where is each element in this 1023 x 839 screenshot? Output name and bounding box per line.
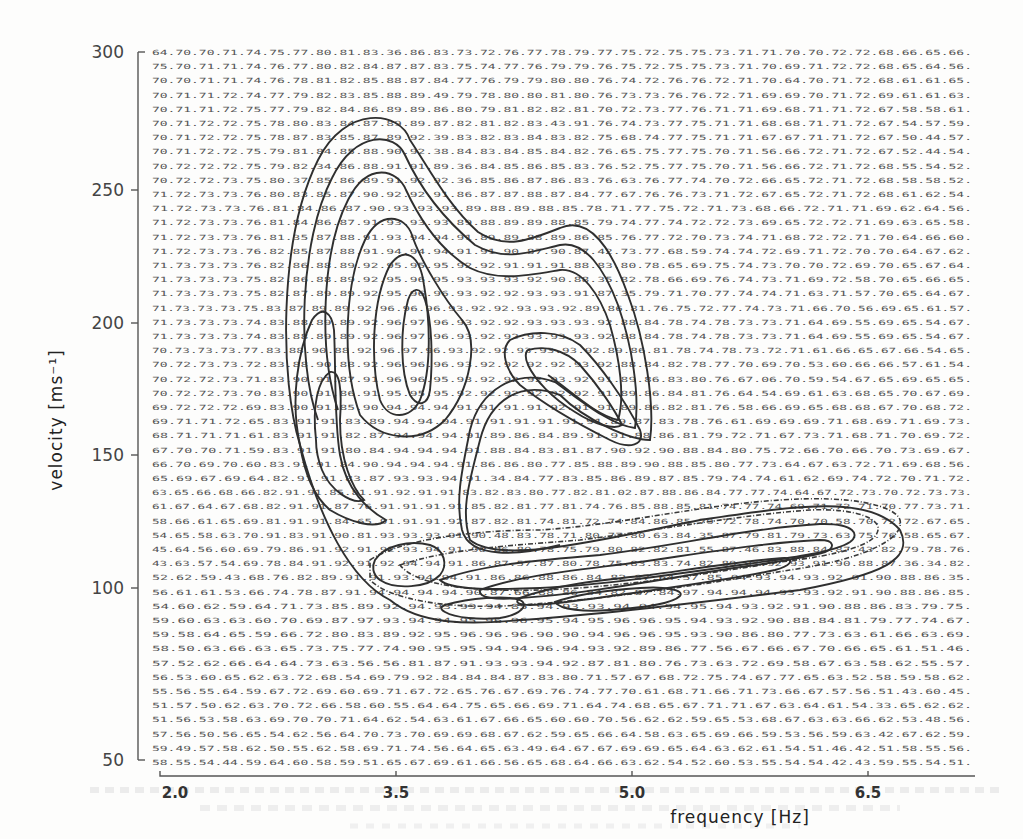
grid-row: 70.73.73.73.77.83.88.90.88.92.96.97.96.9…	[152, 346, 972, 355]
grid-row: 57.56.50.56.65.54.62.56.64.70.73.70.69.6…	[152, 730, 972, 739]
grid-row: 71.73.73.73.75.83.87.89.89.92.96.96.96.9…	[152, 304, 972, 313]
grid-row: 51.56.53.58.63.69.70.70.71.64.62.54.63.6…	[152, 715, 972, 724]
contour-chart: 64.70.70.71.74.75.77.80.81.83.36.86.83.7…	[0, 0, 1023, 839]
grid-row: 71.72.73.73.76.82.85.87.88.91.94.94.94.9…	[152, 247, 972, 256]
grid-row: 70.71.72.72.75.79.81.84.85.88.90.92.38.8…	[152, 147, 972, 156]
grid-row: 68.71.71.71.61.83.91.91.82.87.94.94.94.9…	[152, 431, 972, 440]
grid-row: 71.72.73.73.76.81.35.87.88.91.93.94.94.9…	[152, 233, 972, 242]
grid-row: 70.72.72.73.75.80.37.85.86.89.91.92.92.3…	[152, 176, 972, 185]
grid-row: 56.61.61.53.66.74.78.87.91.94.94.94.94.9…	[152, 588, 972, 597]
y-tick-300: 300	[92, 42, 124, 62]
x-tick-2-0: 2.0	[162, 784, 189, 802]
y-tick-200: 200	[92, 313, 124, 333]
grid-row: 63.65.66.68.66.82.91.91.85.81.91.92.91.9…	[152, 488, 972, 497]
grid-row: 70.70.71.71.74.76.78.81.82.85.88.87.84.7…	[152, 76, 972, 85]
grid-row: 71.73.73.73.74.83.88.89.89.92.96.97.96.9…	[152, 318, 972, 327]
grid-row: 51.57.50.62.63.70.72.66.58.60.55.64.64.7…	[152, 701, 972, 710]
x-axis-title: frequency [Hz]	[670, 807, 810, 827]
grid-row: 69.71.71.72.65.83.91.91.83.89.94.94.94.9…	[152, 417, 972, 426]
numeric-grid: 64.70.70.71.74.75.77.80.81.83.36.86.83.7…	[152, 48, 972, 767]
grid-row: 71.73.73.73.75.82.86.88.89.92.95.96.95.9…	[152, 275, 972, 284]
grid-row: 70.71.72.72.75.78.80.83.84.87.89.89.87.8…	[152, 119, 972, 128]
grid-row: 54.65.58.63.70.91.83.91.90.81.93.93.93.9…	[152, 531, 972, 540]
grid-row: 70.71.72.72.75.78.87.83.85.87.89.92.39.8…	[152, 133, 972, 142]
grid-row: 71.72.73.73.76.80.83.85.87.90.92.92.91.8…	[152, 190, 972, 199]
y-tick-100: 100	[92, 578, 124, 598]
grid-row: 66.70.69.70.60.83.91.91.84.90.94.94.94.9…	[152, 460, 972, 469]
grid-row: 55.56.55.64.59.67.72.69.60.69.71.67.72.6…	[152, 687, 972, 696]
y-tick-150: 150	[92, 445, 124, 465]
grid-row: 75.70.71.71.74.76.77.80.82.84.87.87.83.7…	[152, 62, 972, 71]
grid-row: 64.70.70.71.74.75.77.80.81.83.36.86.83.7…	[152, 48, 972, 57]
y-tick-50: 50	[102, 750, 124, 770]
y-tick-250: 250	[92, 180, 124, 200]
grid-row: 58.55.54.44.59.64.60.58.59.51.65.67.69.6…	[152, 758, 972, 767]
grid-row: 70.72.73.73.72.83.88.90.88.92.96.96.96.9…	[152, 360, 972, 369]
grid-row: 59.49.57.58.62.50.55.62.58.69.71.74.56.6…	[152, 744, 972, 753]
grid-row: 58.50.63.66.63.65.73.75.77.74.90.95.95.9…	[152, 644, 972, 653]
grid-row: 52.62.59.43.68.76.82.89.91.91.93.94.94.9…	[152, 573, 972, 582]
grid-row: 57.52.62.66.64.64.73.63.56.56.81.87.91.9…	[152, 659, 972, 668]
grid-row: 71.72.73.73.76.81.84.86.87.91.93.93.93.8…	[152, 218, 972, 227]
x-tick-5-0: 5.0	[619, 784, 646, 802]
grid-row: 70.72.72.73.71.83.90.91.87.91.96.96.95.9…	[152, 375, 972, 384]
grid-row: 56.53.60.65.62.63.72.68.54.69.79.92.84.8…	[152, 673, 972, 682]
grid-row: 71.72.73.73.76.81.84.86.87.90.93.93.93.8…	[152, 204, 972, 213]
grid-row: 71.73.73.73.76.82.86.88.89.92.95.95.95.9…	[152, 261, 972, 270]
grid-row: 70.71.71.72.75.77.79.82.84.86.89.89.86.8…	[152, 105, 972, 114]
grid-row: 70.71.71.72.74.77.79.82.83.85.88.89.49.7…	[152, 91, 972, 100]
grid-row: 65.69.67.69.64.82.91.91.83.87.93.93.94.9…	[152, 474, 972, 483]
grid-row: 67.70.70.71.59.83.91.91.80.84.94.94.94.9…	[152, 446, 972, 455]
x-tick-3-5: 3.5	[383, 784, 410, 802]
grid-row: 43.63.57.54.69.78.84.91.92.91.92.94.94.9…	[152, 559, 972, 568]
grid-row: 59.58.64.65.59.66.72.80.83.89.92.95.96.9…	[152, 630, 972, 639]
y-axis-title: velocity [ms⁻¹]	[46, 349, 66, 490]
grid-row: 58.66.61.65.69.81.91.91.84.65.91.91.91.9…	[152, 517, 972, 526]
x-tick-6-5: 6.5	[855, 784, 882, 802]
grid-row: 71.73.73.73.75.82.87.89.89.92.95.96.96.9…	[152, 289, 972, 298]
grid-row: 70.72.72.72.75.79.82.34.86.88.91.91.89.3…	[152, 162, 972, 171]
